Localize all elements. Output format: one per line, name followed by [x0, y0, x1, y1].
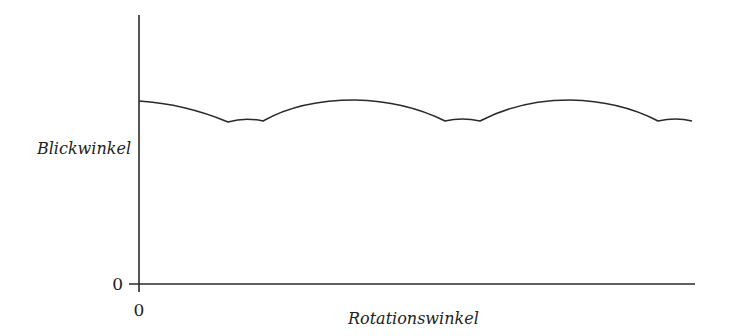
y-axis-label: Blickwinkel [36, 139, 131, 158]
y-zero-label: 0 [112, 274, 123, 294]
curve-line [139, 100, 692, 122]
chart: 0 0 Blickwinkel Rotationswinkel [0, 0, 730, 336]
x-zero-label: 0 [134, 300, 145, 320]
x-axis-label: Rotationswinkel [347, 309, 479, 328]
